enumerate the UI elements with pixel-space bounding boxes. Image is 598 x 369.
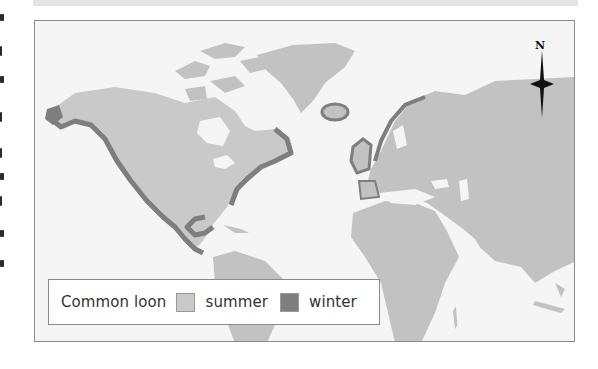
- map-legend: Common loon summer winter: [48, 279, 380, 325]
- compass-north-label: N: [535, 39, 545, 52]
- winter-swatch: [280, 293, 299, 312]
- text-fragment: [0, 148, 2, 158]
- cropped-text-fragments: [0, 8, 6, 268]
- summer-swatch: [176, 293, 195, 312]
- text-fragment: [0, 112, 2, 122]
- compass-rose-icon: [530, 40, 554, 120]
- text-fragment: [0, 196, 2, 206]
- arctic-islands: [175, 43, 267, 101]
- top-bar: [33, 0, 578, 6]
- text-fragment: [0, 76, 4, 83]
- text-fragment: [0, 14, 4, 21]
- greenland: [257, 43, 355, 113]
- british-isles: [351, 139, 371, 173]
- text-fragment: [0, 230, 4, 237]
- legend-label-summer: summer: [205, 293, 268, 311]
- legend-label-winter: winter: [309, 293, 357, 311]
- text-fragment: [0, 260, 4, 267]
- iceland: [322, 104, 348, 120]
- text-fragment: [0, 46, 2, 56]
- legend-title: Common loon: [61, 293, 166, 311]
- text-fragment: [0, 173, 4, 180]
